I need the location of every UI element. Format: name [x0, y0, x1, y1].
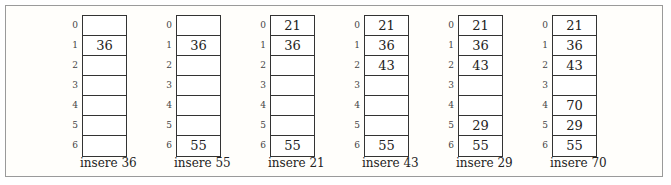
slot-index-label: 2 — [442, 55, 454, 75]
index-column: 0123456 — [66, 15, 78, 155]
hash-slot: 36 — [553, 36, 596, 56]
step-caption: insere 29 — [456, 156, 516, 170]
slot-index-label: 4 — [442, 95, 454, 115]
slot-index-label: 6 — [536, 135, 548, 155]
slot-index-label: 1 — [160, 35, 172, 55]
slot-index-label: 6 — [160, 135, 172, 155]
hash-slot — [271, 76, 314, 96]
slot-index-label: 2 — [160, 55, 172, 75]
hash-slot — [553, 76, 596, 96]
slot-index-label: 2 — [348, 55, 360, 75]
slot-index-label: 0 — [442, 15, 454, 35]
hash-slot — [177, 116, 220, 136]
index-column: 0123456 — [536, 15, 548, 155]
hash-slot: 29 — [553, 116, 596, 136]
hash-slot — [83, 116, 126, 136]
hash-slot: 29 — [459, 116, 502, 136]
slot-index-label: 1 — [442, 35, 454, 55]
hash-slot: 55 — [459, 136, 502, 156]
hash-slot — [177, 16, 220, 36]
hash-slot — [83, 76, 126, 96]
index-column: 0123456 — [442, 15, 454, 155]
hash-slot: 43 — [459, 56, 502, 76]
hash-slot: 36 — [365, 36, 408, 56]
slot-index-label: 1 — [254, 35, 266, 55]
index-column: 0123456 — [348, 15, 360, 155]
slot-index-label: 5 — [442, 115, 454, 135]
slot-index-label: 2 — [254, 55, 266, 75]
hash-slot — [271, 116, 314, 136]
slot-index-label: 5 — [254, 115, 266, 135]
hash-slot: 43 — [365, 56, 408, 76]
slot-index-label: 3 — [66, 75, 78, 95]
slot-index-label: 0 — [536, 15, 548, 35]
hash-slot: 36 — [177, 36, 220, 56]
slot-index-label: 0 — [348, 15, 360, 35]
hash-slot — [365, 76, 408, 96]
hash-slot: 21 — [271, 16, 314, 36]
slot-index-label: 4 — [66, 95, 78, 115]
slot-index-label: 3 — [348, 75, 360, 95]
slot-index-label: 4 — [348, 95, 360, 115]
hash-slot: 55 — [271, 136, 314, 156]
hash-slot — [83, 56, 126, 76]
slot-index-label: 6 — [348, 135, 360, 155]
slot-index-label: 4 — [536, 95, 548, 115]
slot-index-label: 3 — [442, 75, 454, 95]
hash-slot — [271, 56, 314, 76]
hash-table: 213643702955 — [552, 15, 597, 157]
slot-index-label: 6 — [254, 135, 266, 155]
hash-slot — [177, 76, 220, 96]
slot-index-label: 5 — [536, 115, 548, 135]
hash-table: 3655 — [176, 15, 221, 157]
slot-index-label: 0 — [66, 15, 78, 35]
hash-slot — [83, 96, 126, 116]
step-caption: insere 43 — [362, 156, 422, 170]
hash-slot: 21 — [553, 16, 596, 36]
slot-index-label: 2 — [66, 55, 78, 75]
hash-slot: 36 — [83, 36, 126, 56]
hash-slot: 21 — [459, 16, 502, 36]
slot-index-label: 5 — [160, 115, 172, 135]
hash-slot: 55 — [177, 136, 220, 156]
slot-index-label: 1 — [348, 35, 360, 55]
hash-slot — [271, 96, 314, 116]
slot-index-label: 6 — [442, 135, 454, 155]
hash-slot — [459, 96, 502, 116]
hash-slot — [365, 96, 408, 116]
hash-slot — [83, 136, 126, 156]
hash-slot: 70 — [553, 96, 596, 116]
step-caption: insere 55 — [174, 156, 234, 170]
slot-index-label: 5 — [348, 115, 360, 135]
hash-table: 213655 — [270, 15, 315, 157]
slot-index-label: 2 — [536, 55, 548, 75]
slot-index-label: 5 — [66, 115, 78, 135]
hash-slot: 55 — [365, 136, 408, 156]
hash-slot: 43 — [553, 56, 596, 76]
slot-index-label: 0 — [254, 15, 266, 35]
hash-slot: 36 — [459, 36, 502, 56]
hash-slot — [365, 116, 408, 136]
hash-slot: 55 — [553, 136, 596, 156]
index-column: 0123456 — [160, 15, 172, 155]
slot-index-label: 4 — [160, 95, 172, 115]
index-column: 0123456 — [254, 15, 266, 155]
slot-index-label: 3 — [160, 75, 172, 95]
slot-index-label: 4 — [254, 95, 266, 115]
step-caption: insere 70 — [550, 156, 610, 170]
slot-index-label: 3 — [536, 75, 548, 95]
hash-slot — [459, 76, 502, 96]
slot-index-label: 0 — [160, 15, 172, 35]
hash-slot — [83, 16, 126, 36]
slot-index-label: 1 — [536, 35, 548, 55]
hash-slot — [177, 56, 220, 76]
hash-slot — [177, 96, 220, 116]
hash-table: 36 — [82, 15, 127, 157]
hash-slot: 36 — [271, 36, 314, 56]
hash-table: 21364355 — [364, 15, 409, 157]
slot-index-label: 1 — [66, 35, 78, 55]
hash-table: 2136432955 — [458, 15, 503, 157]
step-caption: insere 36 — [80, 156, 140, 170]
hash-slot: 21 — [365, 16, 408, 36]
step-caption: insere 21 — [268, 156, 328, 170]
